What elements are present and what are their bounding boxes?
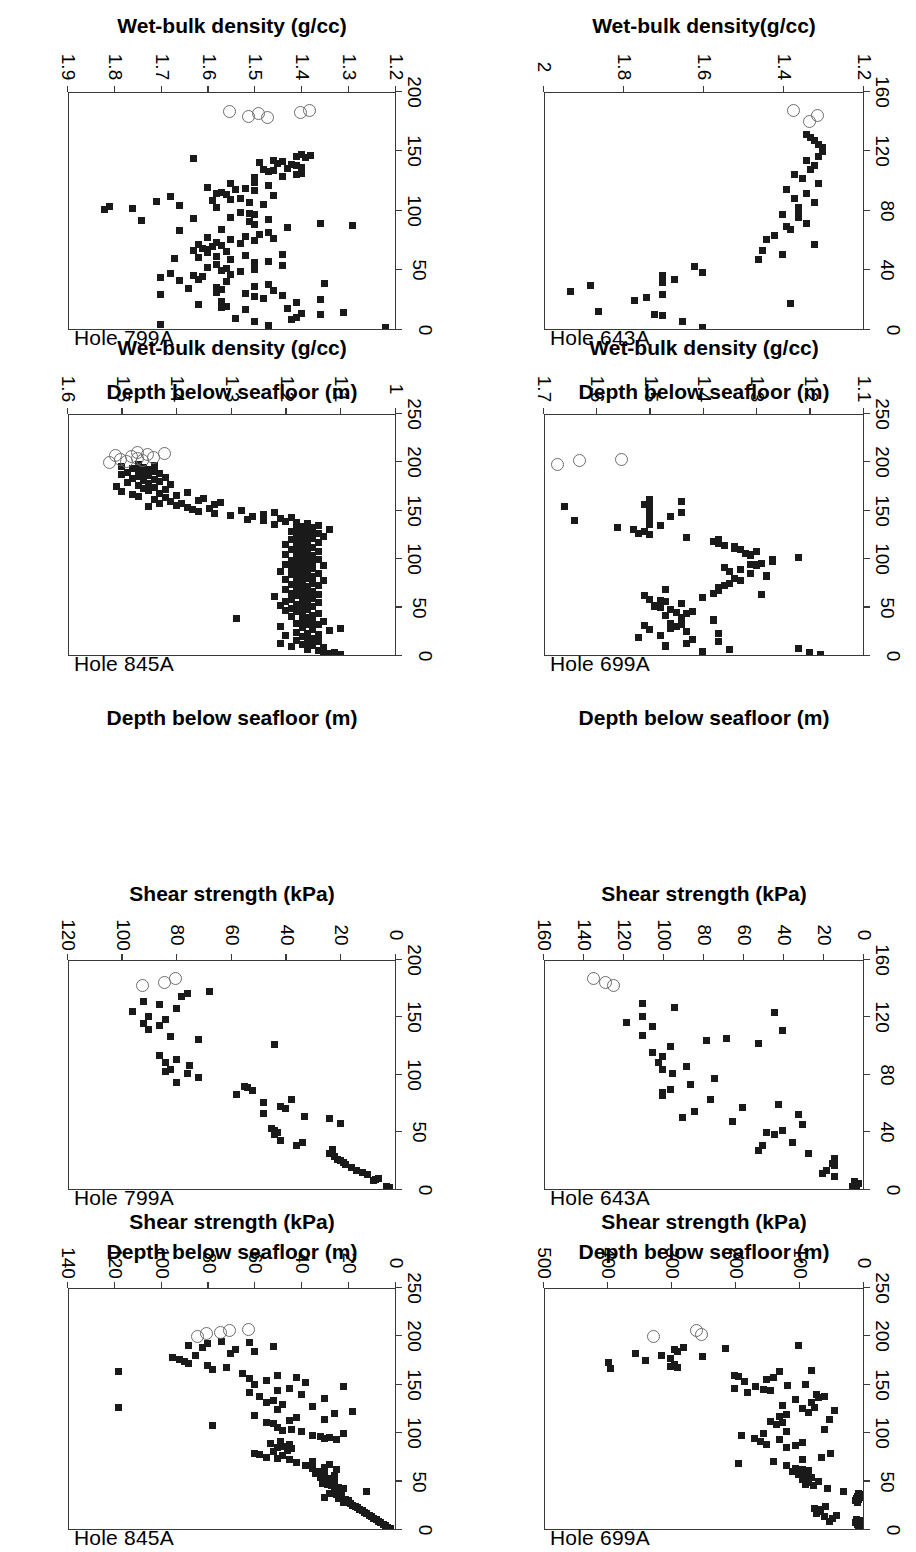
filled-square-marker [279, 173, 286, 180]
filled-square-marker [157, 274, 164, 281]
filled-square-marker [246, 210, 253, 217]
filled-square-marker [265, 216, 272, 223]
x-tick-mark [301, 86, 302, 92]
filled-square-marker [242, 233, 249, 240]
filled-square-marker [265, 229, 272, 236]
filled-square-marker [213, 261, 220, 268]
filled-square-marker [251, 318, 258, 325]
filled-square-marker [256, 159, 263, 166]
filled-square-marker [204, 234, 211, 241]
filled-square-marker [237, 240, 244, 247]
x-tick-label: 1.7 [151, 54, 173, 80]
x-tick-mark [161, 86, 162, 92]
filled-square-marker [242, 306, 249, 313]
x-axis-title-density-799a: Wet-bulk density (g/cc) [117, 14, 346, 38]
filled-square-marker [251, 259, 258, 266]
filled-square-marker [204, 264, 211, 271]
filled-square-marker [228, 236, 235, 243]
filled-square-marker [218, 189, 225, 196]
filled-square-marker [199, 273, 206, 280]
panel-title-density-799a: Hole 799A [74, 326, 174, 350]
y-tick-label: 150 [403, 136, 425, 168]
filled-square-marker [176, 227, 183, 234]
filled-square-marker [237, 209, 244, 216]
y-tick-mark [396, 210, 402, 211]
filled-square-marker [317, 296, 324, 303]
x-tick-label: 1.3 [338, 54, 360, 80]
filled-square-marker [317, 311, 324, 318]
filled-square-marker [228, 271, 235, 278]
figure-root: 0100200300400500Shear strength (kPa)0501… [0, 0, 916, 1552]
filled-square-marker [190, 272, 197, 279]
filled-square-marker [317, 220, 324, 227]
x-tick-mark [348, 86, 349, 92]
filled-square-marker [209, 197, 216, 204]
filled-square-marker [251, 283, 258, 290]
x-tick-label: 1.6 [198, 54, 220, 80]
filled-square-marker [190, 215, 197, 222]
filled-square-marker [218, 226, 225, 233]
filled-square-marker [237, 268, 244, 275]
filled-square-marker [176, 277, 183, 284]
filled-square-marker [167, 270, 174, 277]
y-tick-label: 50 [408, 260, 430, 281]
x-tick-mark [114, 86, 115, 92]
filled-square-marker [223, 248, 230, 255]
filled-square-marker [213, 239, 220, 246]
open-circle-marker [224, 105, 237, 118]
y-tick-label: 0 [414, 325, 436, 336]
y-tick-mark [396, 91, 402, 92]
filled-square-marker [242, 185, 249, 192]
filled-square-marker [228, 214, 235, 221]
y-tick-mark [396, 329, 402, 330]
filled-square-marker [213, 284, 220, 291]
filled-square-marker [298, 170, 305, 177]
filled-square-marker [228, 180, 235, 187]
filled-square-marker [195, 254, 202, 261]
filled-square-marker [246, 218, 253, 225]
filled-square-marker [195, 241, 202, 248]
filled-square-marker [298, 151, 305, 158]
filled-square-marker [270, 157, 277, 164]
filled-square-marker [382, 324, 389, 329]
filled-square-marker [265, 322, 272, 329]
filled-square-marker [167, 193, 174, 200]
data-points-density-799a [69, 93, 395, 329]
filled-square-marker [251, 237, 258, 244]
filled-square-marker [279, 251, 286, 258]
filled-square-marker [265, 281, 272, 288]
filled-square-marker [307, 152, 314, 159]
filled-square-marker [106, 203, 113, 210]
filled-square-marker [265, 182, 272, 189]
filled-square-marker [260, 201, 267, 208]
filled-square-marker [260, 295, 267, 302]
x-tick-label: 1.8 [104, 54, 126, 80]
depth-axis-title-density-799a: Depth below seafloor (m) [107, 380, 358, 404]
filled-square-marker [185, 285, 192, 292]
filled-square-marker [251, 293, 258, 300]
filled-square-marker [176, 202, 183, 209]
filled-square-marker [237, 195, 244, 202]
filled-square-marker [270, 192, 277, 199]
filled-square-marker [279, 292, 286, 299]
filled-square-marker [213, 204, 220, 211]
y-tick-label: 200 [403, 76, 425, 108]
filled-square-marker [246, 199, 253, 206]
filled-square-marker [204, 184, 211, 191]
filled-square-marker [321, 280, 328, 287]
y-tick-mark [396, 150, 402, 151]
x-tick-label: 1.5 [244, 54, 266, 80]
y-tick-mark [396, 269, 402, 270]
filled-square-marker [260, 166, 267, 173]
x-tick-label: 1.4 [291, 54, 313, 80]
x-tick-mark [207, 86, 208, 92]
filled-square-marker [190, 155, 197, 162]
x-tick-mark [254, 86, 255, 92]
filled-square-marker [242, 252, 249, 259]
filled-square-marker [298, 310, 305, 317]
filled-square-marker [251, 174, 258, 181]
y-tick-label: 100 [403, 195, 425, 227]
filled-square-marker [213, 253, 220, 260]
filled-square-marker [223, 265, 230, 272]
filled-square-marker [279, 158, 286, 165]
